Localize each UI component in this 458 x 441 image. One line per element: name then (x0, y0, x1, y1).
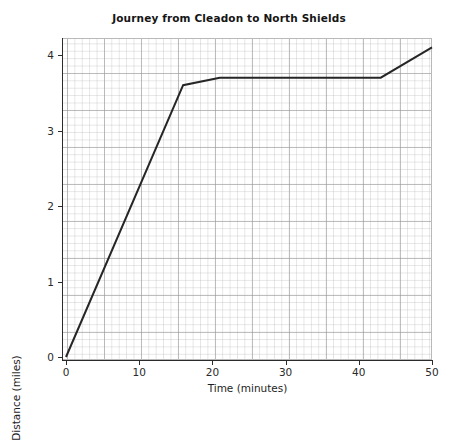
y-tick-label: 2 (47, 200, 54, 212)
y-tick-label: 1 (47, 276, 54, 288)
y-tick-label: 4 (47, 49, 54, 61)
x-axis-title: Time (minutes) (62, 382, 433, 394)
y-tick-label: 3 (47, 125, 54, 137)
y-tick-label: 0 (47, 351, 54, 363)
y-axis-title-text: Distance (miles) (10, 355, 22, 440)
